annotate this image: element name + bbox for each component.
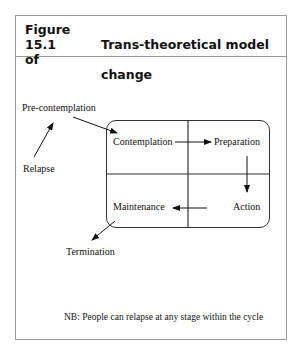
label-termination: Termination	[66, 246, 115, 257]
arrow-maintenance-to-termination	[92, 221, 115, 240]
diagram-lines	[0, 0, 301, 353]
footnote: NB: People can relapse at any stage with…	[64, 312, 263, 322]
arrow-relapse-to-precontemplation	[34, 123, 53, 157]
label-preparation: Preparation	[214, 136, 260, 147]
label-maintenance: Maintenance	[113, 201, 165, 212]
label-contemplation: Contemplation	[113, 136, 172, 147]
label-action: Action	[233, 201, 260, 212]
label-pre-contemplation: Pre-contemplation	[22, 102, 96, 113]
arrow-precontemplation-to-contemplation	[73, 117, 117, 133]
label-relapse: Relapse	[23, 163, 55, 174]
